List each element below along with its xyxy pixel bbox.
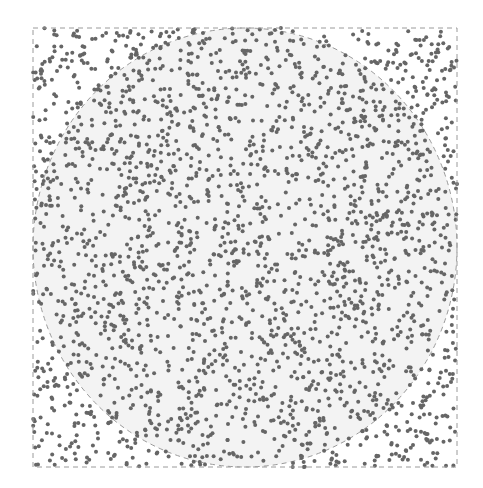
scatter-point [221,363,225,367]
scatter-point [282,434,286,438]
scatter-point [62,274,66,278]
scatter-point [311,223,315,227]
scatter-point [440,245,444,249]
scatter-point [384,183,388,187]
scatter-point [399,230,403,234]
scatter-point [405,184,409,188]
scatter-point [259,386,263,390]
scatter-point [319,139,323,143]
scatter-point [121,437,125,441]
scatter-point [412,373,416,377]
scatter-point [359,175,363,179]
scatter-point [210,97,214,101]
scatter-point [305,133,309,137]
scatter-point [226,283,230,287]
scatter-point [337,326,341,330]
scatter-point [86,182,90,186]
scatter-point [418,220,422,224]
scatter-point [130,339,134,343]
scatter-point [397,160,401,164]
scatter-point [303,255,307,259]
scatter-point [259,63,263,67]
scatter-point [361,429,365,433]
scatter-point [52,92,56,96]
scatter-point [267,270,271,274]
scatter-point [131,47,135,51]
scatter-point [137,297,141,301]
scatter-point [435,269,439,273]
scatter-point [335,278,339,282]
scatter-point [395,210,399,214]
scatter-point [395,444,399,448]
scatter-point [37,444,41,448]
scatter-point [316,409,320,413]
scatter-point [34,241,38,245]
scatter-point [49,151,53,155]
scatter-point [352,117,356,121]
scatter-point [39,221,43,225]
scatter-point [333,388,337,392]
scatter-point [335,332,339,336]
scatter-point [252,143,256,147]
scatter-point [81,44,85,48]
scatter-point [345,401,349,405]
scatter-point [227,452,231,456]
scatter-point [53,49,57,53]
scatter-point [280,401,284,405]
scatter-point [211,370,215,374]
scatter-point [349,361,353,365]
scatter-point [172,317,176,321]
scatter-point [328,363,332,367]
scatter-point [412,122,416,126]
scatter-point [411,401,415,405]
scatter-point [33,142,37,146]
scatter-point [322,273,326,277]
scatter-point [130,346,134,350]
scatter-point [266,169,270,173]
scatter-point [444,99,448,103]
scatter-point [144,403,148,407]
scatter-point [124,44,128,48]
scatter-point [351,33,355,37]
scatter-point [248,387,252,391]
scatter-point [181,441,185,445]
scatter-point [420,118,424,122]
scatter-point [416,103,420,107]
scatter-point [292,84,296,88]
scatter-point [47,135,51,139]
scatter-point [444,90,448,94]
scatter-point [129,134,133,138]
scatter-point [138,189,142,193]
scatter-point [203,463,207,467]
scatter-point [365,138,369,142]
scatter-point [134,165,138,169]
scatter-point [261,277,265,281]
scatter-point [146,212,150,216]
scatter-point [57,250,61,254]
scatter-point [361,245,365,249]
scatter-point [365,258,369,262]
scatter-point [447,248,451,252]
scatter-point [399,200,403,204]
scatter-point [442,154,446,158]
scatter-point [76,445,80,449]
scatter-point [161,98,165,102]
scatter-point [374,104,378,108]
scatter-point [356,400,360,404]
scatter-point [201,31,205,35]
scatter-point [435,416,439,420]
scatter-point [440,280,444,284]
scatter-point [107,374,111,378]
scatter-point [124,90,128,94]
scatter-point [431,451,435,455]
scatter-point [308,442,312,446]
scatter-point [178,200,182,204]
scatter-point [449,154,453,158]
scatter-point [80,403,84,407]
scatter-point [395,190,399,194]
scatter-point [66,66,70,70]
scatter-point [407,303,411,307]
scatter-point [290,327,294,331]
scatter-point [72,283,76,287]
scatter-point [38,329,42,333]
